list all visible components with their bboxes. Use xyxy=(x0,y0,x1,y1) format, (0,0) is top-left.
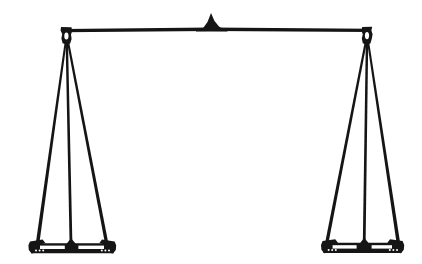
right-pan-rail-inner-a xyxy=(333,245,357,248)
right-pan-rivet-4 xyxy=(389,249,391,251)
right-pan-rivet-5 xyxy=(392,249,394,251)
right-pan-rivet-3 xyxy=(335,249,337,251)
left-hanger-eyelet xyxy=(64,32,68,39)
right-pan-rivet-2 xyxy=(331,249,333,251)
right-pan xyxy=(321,238,404,253)
balance-scale-figure: Balance Scale A symmetrical beam balance… xyxy=(0,0,422,264)
left-pan xyxy=(28,238,116,253)
left-pan-rivet-1 xyxy=(35,249,37,251)
left-pan-rail-inner-a xyxy=(40,246,65,249)
left-pan-rivet-4 xyxy=(101,249,103,251)
left-pan-rivet-6 xyxy=(108,249,110,251)
left-pan-rail-inner-b xyxy=(78,246,104,249)
right-pan-rivet-1 xyxy=(328,249,330,251)
right-pan-rivet-6 xyxy=(396,249,398,251)
right-hanger-eyelet xyxy=(365,32,369,39)
balance-scale-drawing: Balance Scale A symmetrical beam balance… xyxy=(0,0,422,264)
left-pan-rivet-5 xyxy=(104,249,106,251)
left-pan-rivet-2 xyxy=(39,249,41,251)
left-hanger xyxy=(61,27,73,45)
left-pan-rivet-3 xyxy=(42,249,44,251)
right-pan-rail-inner-b xyxy=(372,245,392,248)
